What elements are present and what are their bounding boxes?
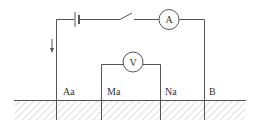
switch-icon[interactable]: [120, 13, 132, 20]
electrode-label-b: B: [209, 86, 216, 97]
battery-icon: [75, 12, 79, 27]
voltmeter-label: V: [129, 57, 137, 68]
ammeter-label: A: [165, 14, 173, 25]
current-direction-arrow-icon: [50, 39, 54, 53]
electrode-label-ma: Ma: [107, 86, 121, 97]
voltmeter: V: [123, 52, 143, 72]
ground-hatch: [15, 101, 245, 120]
circuit-svg: A V Aa Ma Na B: [0, 0, 257, 133]
electrode-label-na: Na: [165, 86, 177, 97]
electrical-sounding-diagram: A V Aa Ma Na B: [0, 0, 257, 133]
electrode-label-aa: Aa: [63, 86, 75, 97]
ammeter: A: [159, 10, 179, 30]
